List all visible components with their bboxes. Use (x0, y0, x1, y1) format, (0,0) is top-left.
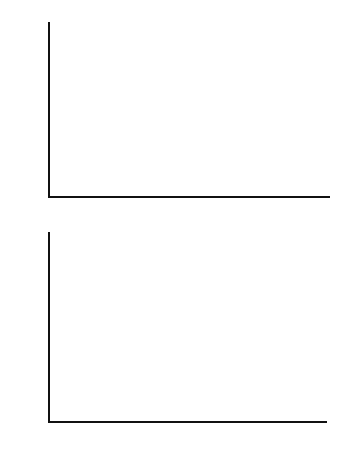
penetration-depth-figure (0, 0, 348, 465)
top-chart (0, 0, 330, 198)
bottom-chart (48, 232, 327, 423)
